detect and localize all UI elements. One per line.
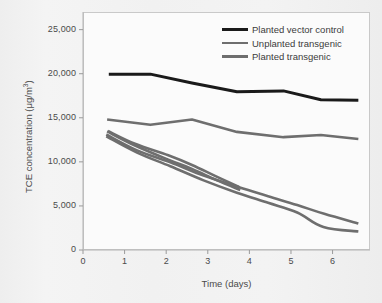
data-series-layer (106, 74, 358, 231)
y-axis-tick-label: 25,000 (48, 24, 76, 34)
y-axis-tick-label: 20,000 (48, 68, 76, 78)
x-axis-tick-label: 4 (239, 256, 259, 266)
x-axis-tick-label: 6 (323, 256, 343, 266)
x-axis-tick-label: 2 (156, 256, 176, 266)
legend-label: Planted vector control (252, 24, 344, 35)
series-line-3 (108, 131, 239, 187)
series-line-2 (107, 120, 358, 139)
y-axis-tick-label: 0 (71, 244, 76, 254)
legend-item-1[interactable]: Planted vector control (222, 24, 344, 35)
y-axis-tick-label: 15,000 (48, 112, 76, 122)
x-axis-tick-label: 1 (115, 256, 135, 266)
x-axis-tick-label: 5 (281, 256, 301, 266)
x-axis-tick-label: 0 (73, 256, 93, 266)
x-axis-title: Time (days) (187, 278, 267, 289)
legend-label: Unplanted transgenic (252, 38, 342, 49)
legend-item-3[interactable]: Planted transgenic (222, 51, 331, 62)
legend-item-2[interactable]: Unplanted transgenic (222, 38, 342, 49)
legend-swatch-icon (222, 42, 248, 45)
legend-swatch-icon (222, 28, 248, 31)
series-line-1 (109, 74, 359, 100)
x-axis-tick-label: 3 (198, 256, 218, 266)
legend-label: Planted transgenic (252, 51, 331, 62)
chart-figure: 05,00010,00015,00020,00025,000 0123456 T… (0, 0, 382, 303)
y-axis-tick-label: 5,000 (53, 200, 76, 210)
y-axis-title: TCE concentration (μg/m3) (22, 80, 34, 193)
legend-swatch-icon (222, 55, 248, 58)
y-axis-tick-label: 10,000 (48, 156, 76, 166)
